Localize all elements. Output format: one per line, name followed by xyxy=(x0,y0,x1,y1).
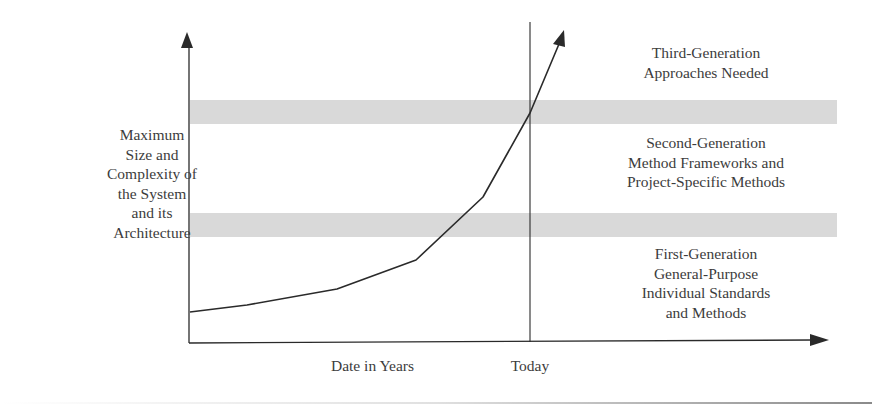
y-label-line: Maximum xyxy=(72,125,232,145)
curve-arrow-icon xyxy=(553,30,565,47)
today-label: Today xyxy=(490,356,570,376)
lower-boundary-band xyxy=(190,213,837,237)
y-label-line: Size and xyxy=(72,145,232,165)
zone-label-line: Method Frameworks and xyxy=(576,153,836,173)
zone-label-line: Approaches Needed xyxy=(576,63,836,83)
zone-third-generation-label: Third-Generation Approaches Needed xyxy=(576,43,836,82)
zone-first-generation-label: First-Generation General-Purpose Individ… xyxy=(576,244,836,322)
x-axis-arrow-icon xyxy=(810,334,829,346)
y-label-line: and its xyxy=(72,203,232,223)
zone-label-line: Second-Generation xyxy=(576,133,836,153)
zone-label-line: Third-Generation xyxy=(576,43,836,63)
x-axis-label: Date in Years xyxy=(300,356,445,376)
zone-label-line: General-Purpose xyxy=(576,264,836,284)
y-label-line: Architecture xyxy=(72,223,232,243)
zone-label-line: First-Generation xyxy=(576,244,836,264)
x-axis xyxy=(189,340,812,343)
y-label-line: the System xyxy=(72,184,232,204)
zone-label-line: and Methods xyxy=(576,303,836,323)
y-axis-arrow-icon xyxy=(181,32,193,48)
zone-label-line: Individual Standards xyxy=(576,283,836,303)
y-axis-label: Maximum Size and Complexity of the Syste… xyxy=(72,125,232,242)
growth-curve xyxy=(190,44,559,312)
upper-boundary-band xyxy=(190,100,837,124)
zone-label-line: Project-Specific Methods xyxy=(576,172,836,192)
y-label-line: Complexity of xyxy=(72,164,232,184)
zone-second-generation-label: Second-Generation Method Frameworks and … xyxy=(576,133,836,192)
bottom-rule xyxy=(0,402,872,404)
